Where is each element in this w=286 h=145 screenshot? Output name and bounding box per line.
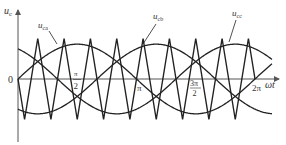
leader-u-cc [229, 20, 236, 42]
svg-text:2: 2 [193, 89, 197, 98]
svg-text:π: π [74, 70, 78, 78]
svg-text:3π: 3π [190, 79, 198, 88]
svg-text:2: 2 [74, 81, 79, 91]
label-u-ca: uca [38, 20, 48, 31]
label-u-cb: ucb [153, 11, 163, 22]
tick-three-pi-over-2: 3π 2 [190, 79, 201, 98]
label-u-cc: ucc [232, 8, 242, 19]
tick-pi: π [137, 83, 142, 93]
x-axis-label: ωt [265, 79, 275, 90]
origin-label: 0 [8, 74, 13, 85]
leader-u-cb [143, 24, 156, 44]
y-axis-label: uc [4, 5, 12, 18]
tick-two-pi: 2π [252, 83, 262, 93]
spwm-diagram: uc 0 ωt π 2 π 3π 2 2π uca ucb ucc [0, 0, 286, 145]
tick-pi-over-2: π 2 [73, 70, 81, 91]
leader-u-ca [49, 31, 57, 44]
